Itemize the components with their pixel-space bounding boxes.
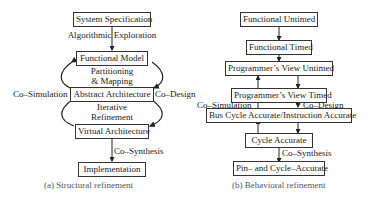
cycle-accurate-box: Cycle Accurate [245,133,313,148]
functional-untimed-box: Functional Untimed [240,12,318,27]
caption-structural: (a) Structural refinement [44,180,133,190]
abstract-architecture-box: Abstract Architecture [70,87,154,102]
co-design-label-left: Co–Design [155,89,196,99]
system-specification-box: System Specification [73,12,151,27]
refinement-label: Refinement [82,112,142,122]
co-synthesis-label-right: Co–Synthesis [282,148,332,158]
algorithmic-exploration-label: Algorithmic Exploration [67,30,157,40]
implementation-box: Implementation [78,162,146,177]
partitioning-label: Partitioning [82,66,142,76]
bus-cycle-accurate-box: Bus Cycle Accurate/Instruction Accurate [206,108,352,123]
pin-and-cycle-accurate-box: Pin– and Cycle–Accurate [233,161,325,176]
functional-timed-box: Functional Timed [246,40,312,55]
caption-behavioral: (b) Behavioral refinement [232,180,325,190]
functional-model-box: Functional Model [76,51,148,66]
iterative-label: Iterative [82,102,142,112]
mapping-label: & Mapping [82,76,142,86]
co-simulation-label-left: Co–Simulation [13,89,68,99]
virtual-architecture-box: Virtual Architecture [75,124,149,139]
co-synthesis-label-left: Co–Synthesis [114,146,164,156]
programmers-view-untimed-box: Programmer’s View Untimed [225,61,333,76]
